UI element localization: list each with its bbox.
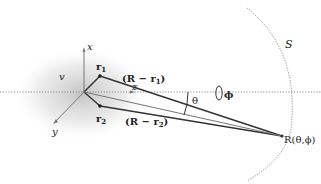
phi-rotation-icon — [216, 86, 222, 100]
y-axis-label: y — [51, 126, 58, 137]
sphere-arc — [247, 8, 292, 181]
x-axis-label: x — [87, 41, 93, 52]
sphere-label: S — [285, 38, 293, 51]
theta-label: θ — [192, 95, 198, 106]
observation-point-label: R(θ,ϕ) — [284, 134, 315, 145]
volume-label: v — [59, 71, 65, 82]
phi-label: ϕ — [224, 89, 233, 100]
radiation-geometry-diagram: x y z v r1 r2 (R − r1) (R − r2) θ ϕ S R(… — [0, 0, 321, 184]
